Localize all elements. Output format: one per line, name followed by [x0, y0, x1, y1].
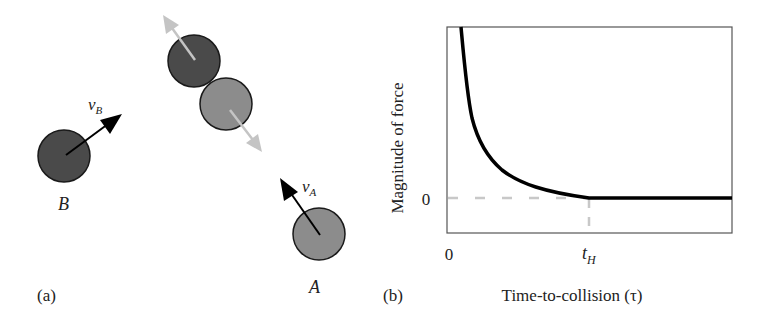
force-curve: [461, 27, 732, 198]
velocity-b-arrowhead-icon: [100, 114, 122, 134]
panel-b: Magnitude of force 0 0 tH Time-to-collis…: [383, 27, 732, 305]
x-tick-th: tH: [582, 243, 597, 267]
collision-pair: [163, 15, 262, 152]
agent-a: vA A: [280, 177, 345, 297]
x-tick-zero: 0: [445, 245, 454, 264]
agent-b-label: B: [58, 194, 69, 214]
velocity-a-label: vA: [302, 177, 317, 198]
x-axis-label: Time-to-collision (τ): [502, 286, 643, 305]
panel-a-label: (a): [37, 286, 56, 305]
agent-b-circle: [38, 130, 90, 182]
velocity-b-label: vB: [88, 95, 103, 116]
repulsion-arrowhead-up-icon: [163, 15, 179, 34]
velocity-a-arrowhead-icon: [280, 178, 298, 201]
figure-canvas: vB B vA A (a) Magnit: [0, 0, 768, 324]
panel-b-label: (b): [383, 286, 403, 305]
collision-light-circle: [200, 78, 252, 130]
agent-a-label: A: [308, 277, 321, 297]
panel-a: vB B vA A (a): [37, 15, 345, 305]
y-axis-label: Magnitude of force: [388, 82, 407, 213]
collision-dark-circle: [168, 35, 220, 87]
agent-b: vB B: [38, 95, 122, 214]
y-tick-zero: 0: [422, 190, 431, 209]
repulsion-arrowhead-down-icon: [246, 134, 262, 152]
